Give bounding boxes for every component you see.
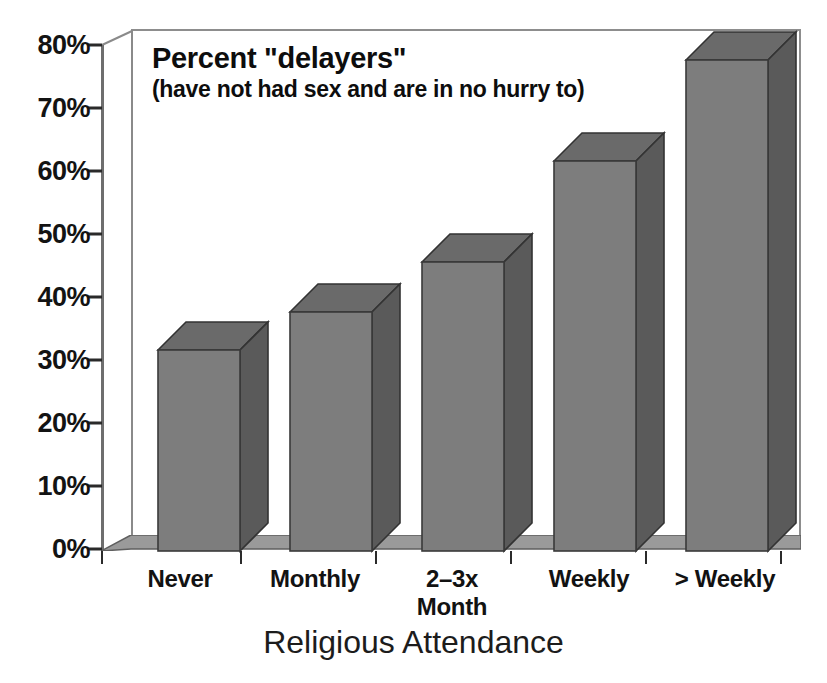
x-axis-label-2-3x-month-line2: Month xyxy=(367,593,537,621)
x-axis-label-more-than-weekly-line1: > Weekly xyxy=(635,565,815,593)
chart-subtitle: (have not had sex and are in no hurry to… xyxy=(152,76,712,102)
y-tick-mark-40 xyxy=(88,296,102,299)
y-axis-label-30: 30% xyxy=(0,345,90,376)
chart-title: Percent "delayers" xyxy=(152,42,712,74)
y-tick-mark-0 xyxy=(88,548,102,551)
bar-2-3x-month xyxy=(422,234,504,551)
bar-monthly xyxy=(290,284,372,551)
y-tick-mark-10 xyxy=(88,485,102,488)
x-tick-mark-3 xyxy=(510,551,512,564)
y-axis-label-80: 80% xyxy=(0,30,90,61)
bar-weekly xyxy=(554,133,636,551)
y-axis-label-60: 60% xyxy=(0,156,90,187)
y-axis-label-70: 70% xyxy=(0,93,90,124)
chart-title-block: Percent "delayers" (have not had sex and… xyxy=(152,42,712,103)
bar-never xyxy=(158,322,240,551)
bar-2-3x-month-shape xyxy=(422,234,534,551)
bar-more-than-weekly xyxy=(686,32,768,551)
y-axis-label-40: 40% xyxy=(0,282,90,313)
y-tick-mark-20 xyxy=(88,422,102,425)
x-tick-mark-0 xyxy=(101,551,103,564)
x-tick-mark-2 xyxy=(375,551,377,564)
y-axis-line-back xyxy=(131,30,133,535)
y-tick-mark-50 xyxy=(88,233,102,236)
x-tick-mark-5 xyxy=(780,551,782,564)
x-axis-label-more-than-weekly: > Weekly xyxy=(635,565,815,593)
x-tick-mark-4 xyxy=(645,551,647,564)
y-axis-label-0: 0% xyxy=(0,534,90,565)
bar-monthly-shape xyxy=(290,284,402,551)
bar-more-than-weekly-shape xyxy=(686,32,798,551)
y-tick-mark-60 xyxy=(88,170,102,173)
x-tick-mark-1 xyxy=(240,551,242,564)
y-axis-label-50: 50% xyxy=(0,219,90,250)
y-axis-label-10: 10% xyxy=(0,471,90,502)
y-tick-mark-80 xyxy=(88,44,102,47)
bar-never-shape xyxy=(158,322,270,551)
y-axis-label-20: 20% xyxy=(0,408,90,439)
bar-weekly-shape xyxy=(554,133,666,551)
y-tick-mark-30 xyxy=(88,359,102,362)
axis-top-connector xyxy=(101,30,133,46)
y-tick-mark-70 xyxy=(88,107,102,110)
bar-chart-figure: 80% 70% 60% 50% 40% 30% 20% 10% 0% Perce… xyxy=(0,0,827,683)
x-axis-title: Religious Attendance xyxy=(0,624,827,661)
